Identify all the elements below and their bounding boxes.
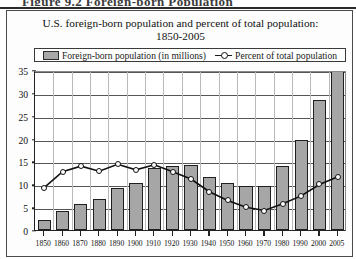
line-marker bbox=[206, 189, 212, 195]
x-tick-label: 1950 bbox=[219, 239, 234, 248]
x-tick-mark bbox=[263, 231, 264, 236]
y-tick-label: 5 bbox=[23, 203, 28, 214]
x-tick-mark bbox=[227, 231, 228, 236]
x-tick-label: 1870 bbox=[72, 239, 87, 248]
line-marker bbox=[188, 176, 194, 182]
x-tick-label: 1850 bbox=[36, 239, 51, 248]
x-tick-label: 2000 bbox=[311, 239, 326, 248]
y-tick-label: 30 bbox=[18, 88, 28, 99]
x-axis: 1850186018701880189019001910192019301940… bbox=[34, 231, 346, 259]
plot-area bbox=[34, 71, 346, 231]
caption-divider bbox=[0, 7, 356, 9]
chart-subtitle: 1850-2005 bbox=[7, 30, 354, 43]
x-tick-label: 2005 bbox=[329, 239, 344, 248]
x-tick-label: 1900 bbox=[127, 239, 142, 248]
legend-item-line: Percent of total population bbox=[215, 50, 337, 61]
line-marker bbox=[243, 204, 249, 210]
line-marker bbox=[41, 185, 47, 191]
x-tick-label: 1970 bbox=[256, 239, 271, 248]
line-marker bbox=[225, 197, 231, 203]
figure-caption-text: Figure 9.2 Foreign-born Population bbox=[0, 0, 356, 6]
chart-frame: U.S. foreign-born population and percent… bbox=[6, 10, 353, 257]
legend-label-bars: Foreign-born population (in millions) bbox=[62, 50, 206, 61]
line-marker bbox=[60, 169, 66, 175]
line-marker bbox=[335, 174, 341, 180]
y-tick-label: 20 bbox=[18, 134, 28, 145]
x-tick-label: 1940 bbox=[201, 239, 216, 248]
x-tick-label: 1920 bbox=[164, 239, 179, 248]
x-tick-label: 1930 bbox=[182, 239, 197, 248]
x-tick-mark bbox=[80, 231, 81, 236]
line-circle-icon bbox=[215, 51, 232, 59]
x-tick-label: 1880 bbox=[91, 239, 106, 248]
y-tick-label: 25 bbox=[18, 111, 28, 122]
x-tick-mark bbox=[98, 231, 99, 236]
legend-item-bars: Foreign-born population (in millions) bbox=[43, 50, 206, 61]
x-tick-label: 1990 bbox=[293, 239, 308, 248]
y-tick-label: 35 bbox=[18, 66, 28, 77]
y-tick-label: 10 bbox=[18, 180, 28, 191]
x-tick-mark bbox=[337, 231, 338, 236]
line-marker bbox=[298, 193, 304, 199]
line-marker bbox=[170, 169, 176, 175]
x-tick-label: 1910 bbox=[146, 239, 161, 248]
y-tick-label: 0 bbox=[23, 226, 28, 237]
x-tick-label: 1980 bbox=[274, 239, 289, 248]
x-tick-mark bbox=[62, 231, 63, 236]
x-tick-mark bbox=[245, 231, 246, 236]
x-tick-mark bbox=[135, 231, 136, 236]
x-tick-mark bbox=[208, 231, 209, 236]
line-marker bbox=[280, 201, 286, 207]
line-marker bbox=[316, 181, 322, 187]
x-tick-mark bbox=[318, 231, 319, 236]
x-tick-mark bbox=[190, 231, 191, 236]
figure-container: Figure 9.2 Foreign-born Population U.S. … bbox=[0, 0, 356, 259]
line-marker bbox=[96, 168, 102, 174]
y-tick-label: 15 bbox=[18, 157, 28, 168]
x-tick-label: 1890 bbox=[109, 239, 124, 248]
chart-title: U.S. foreign-born population and percent… bbox=[7, 17, 354, 30]
x-tick-mark bbox=[153, 231, 154, 236]
x-tick-mark bbox=[300, 231, 301, 236]
x-tick-label: 1960 bbox=[237, 239, 252, 248]
x-tick-mark bbox=[172, 231, 173, 236]
line-marker bbox=[151, 162, 157, 168]
x-tick-mark bbox=[282, 231, 283, 236]
x-tick-mark bbox=[117, 231, 118, 236]
chart-legend: Foreign-born population (in millions) Pe… bbox=[34, 48, 346, 62]
bar-swatch-icon bbox=[43, 51, 59, 60]
line-marker bbox=[261, 208, 267, 214]
line-marker bbox=[115, 161, 121, 167]
line-series-markers bbox=[35, 72, 345, 230]
line-marker bbox=[78, 163, 84, 169]
legend-label-line: Percent of total population bbox=[235, 50, 337, 61]
x-tick-mark bbox=[43, 231, 44, 236]
y-axis: 05101520253035 bbox=[7, 71, 32, 231]
figure-caption: Figure 9.2 Foreign-born Population bbox=[0, 0, 356, 6]
line-marker bbox=[133, 167, 139, 173]
x-tick-label: 1860 bbox=[54, 239, 69, 248]
